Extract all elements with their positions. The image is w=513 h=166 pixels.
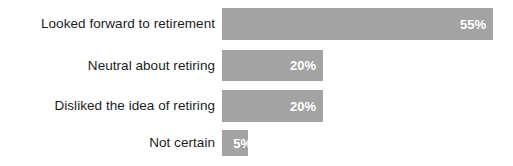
category-label: Disliked the idea of retiring <box>0 99 222 113</box>
chart-row: Not certain 5% <box>0 130 513 156</box>
bar-track: 20% <box>222 50 513 81</box>
bar-not-certain: 5% <box>222 130 248 156</box>
bar-value-label: 20% <box>290 59 323 72</box>
bar-track: 55% <box>222 8 513 40</box>
bar-track: 20% <box>222 90 513 122</box>
bar-track: 5% <box>222 130 513 156</box>
bar-neutral-about-retiring: 20% <box>222 50 323 81</box>
chart-row: Disliked the idea of retiring 20% <box>0 90 513 122</box>
bar-looked-forward-to-retirement: 55% <box>222 8 493 40</box>
bar-value-label: 55% <box>460 18 493 31</box>
bar-value-label: 20% <box>290 100 323 113</box>
category-label: Looked forward to retirement <box>0 17 222 31</box>
bar-value-label: 5% <box>233 137 252 150</box>
bar-disliked-the-idea-of-retiring: 20% <box>222 90 323 122</box>
chart-row: Looked forward to retirement 55% <box>0 8 513 40</box>
category-label: Not certain <box>0 136 222 150</box>
chart-row: Neutral about retiring 20% <box>0 50 513 81</box>
category-label: Neutral about retiring <box>0 59 222 73</box>
horizontal-bar-chart: Looked forward to retirement 55% Neutral… <box>0 0 513 166</box>
